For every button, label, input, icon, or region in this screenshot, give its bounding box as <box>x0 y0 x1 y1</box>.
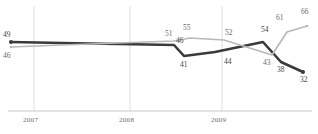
data-label-32: 32 <box>300 76 308 84</box>
data-label-52: 52 <box>225 29 233 37</box>
series-endpoint-dark <box>301 70 305 74</box>
data-label-55: 55 <box>183 24 191 32</box>
data-label-66: 66 <box>301 8 309 16</box>
data-label-46: 46 <box>3 52 11 60</box>
chart-plot-area <box>0 0 318 134</box>
gridlines <box>34 6 222 111</box>
x-tick-2007: 2007 <box>23 116 38 124</box>
data-label-61: 61 <box>276 14 284 22</box>
data-label-46: 46 <box>176 37 184 45</box>
x-tick-2009: 2009 <box>211 116 226 124</box>
series-endpoint-light <box>306 25 309 28</box>
data-label-54: 54 <box>261 26 269 34</box>
data-label-49: 49 <box>3 31 11 39</box>
data-label-38: 38 <box>277 66 285 74</box>
series-line-dark <box>11 42 303 72</box>
series-endpoint-light <box>10 46 13 49</box>
data-label-43: 43 <box>263 59 271 67</box>
data-label-44: 44 <box>224 58 232 66</box>
data-label-41: 41 <box>180 61 188 69</box>
line-chart: 4946515546415244544361386632 20072008200… <box>0 0 318 134</box>
x-tick-2008: 2008 <box>119 116 134 124</box>
series-endpoint-dark <box>9 40 13 44</box>
data-label-51: 51 <box>165 30 173 38</box>
